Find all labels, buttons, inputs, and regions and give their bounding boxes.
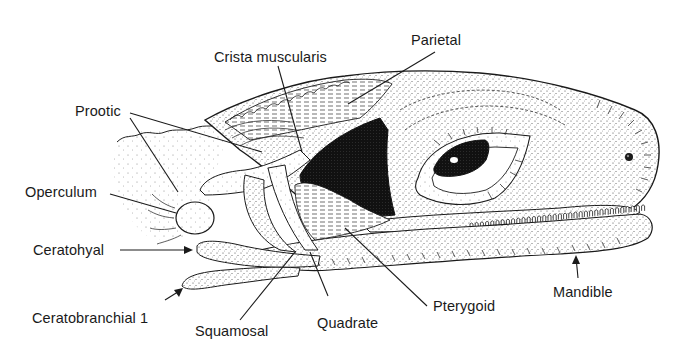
- tooth: [569, 213, 572, 219]
- tooth: [631, 206, 634, 212]
- tooth: [610, 208, 613, 214]
- label-squamosal: Squamosal: [195, 324, 268, 339]
- nostril: [625, 153, 633, 161]
- eye-highlight: [450, 157, 458, 163]
- tooth: [595, 210, 598, 216]
- tooth: [548, 215, 551, 221]
- tooth: [527, 217, 530, 223]
- label-pterygoid: Pterygoid: [433, 299, 495, 314]
- label-ceratohyal: Ceratohyal: [33, 243, 104, 258]
- tooth: [538, 216, 541, 222]
- label-prootic: Prootic: [75, 104, 121, 119]
- tooth: [553, 214, 556, 220]
- skull-diagram: [0, 0, 685, 358]
- operculum-bone: [176, 202, 214, 234]
- tooth: [579, 211, 582, 217]
- label-mandible: Mandible: [553, 285, 613, 300]
- tooth: [584, 211, 587, 217]
- tooth: [574, 212, 577, 218]
- tooth: [605, 209, 608, 215]
- tooth: [626, 207, 629, 213]
- tooth: [564, 213, 567, 219]
- tooth: [616, 208, 619, 214]
- label-ceratobranchial: Ceratobranchial 1: [32, 311, 148, 326]
- tooth: [600, 209, 603, 215]
- tooth: [621, 207, 624, 213]
- tooth: [642, 205, 645, 211]
- arrowhead-ceratohyal: [184, 246, 193, 254]
- label-operculum: Operculum: [25, 185, 97, 200]
- ceratobranchial-bone: [182, 267, 300, 289]
- tooth: [636, 205, 639, 211]
- arrowhead-ceratobranchial: [174, 288, 183, 297]
- tooth: [532, 216, 535, 222]
- label-parietal: Parietal: [411, 33, 461, 48]
- tooth: [590, 210, 593, 216]
- label-quadrate: Quadrate: [317, 316, 378, 331]
- tooth: [558, 214, 561, 220]
- tooth: [543, 215, 546, 221]
- label-crista-muscularis: Crista muscularis: [214, 50, 327, 65]
- arrowhead-mandible: [572, 255, 580, 264]
